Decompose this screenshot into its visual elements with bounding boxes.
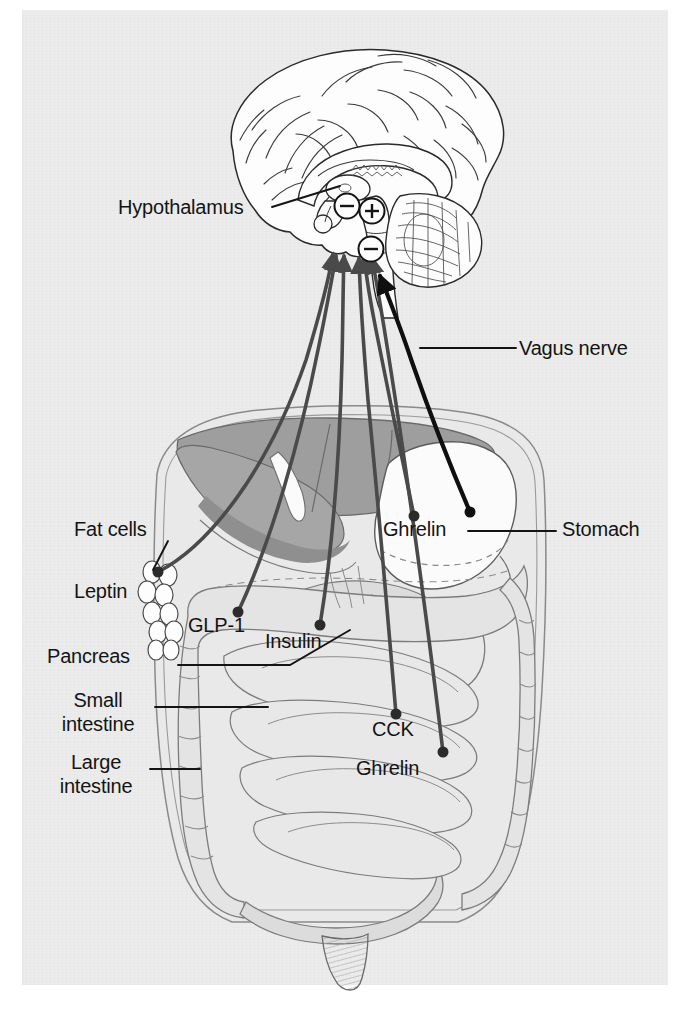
label-cck: CCK <box>372 718 414 741</box>
label-fat-cells: Fat cells <box>74 518 147 541</box>
label-glp1: GLP-1 <box>188 614 245 637</box>
figure-page: Hypothalamus Vagus nerve Fat cells Lepti… <box>0 0 683 1009</box>
insulin-dot <box>315 620 326 631</box>
label-insulin: Insulin <box>265 630 321 653</box>
label-pancreas: Pancreas <box>47 645 130 668</box>
label-hypothalamus: Hypothalamus <box>118 196 243 219</box>
label-small-intestine-line2: intestine <box>62 713 135 735</box>
label-stomach: Stomach <box>562 518 640 541</box>
label-vagus-nerve: Vagus nerve <box>519 337 628 360</box>
rectum <box>322 934 368 990</box>
label-ghrelin-intestine: Ghrelin <box>356 757 419 780</box>
ghrelin-intestine-dot <box>438 747 449 758</box>
label-small-intestine-line1: Small <box>73 689 122 711</box>
label-large-intestine-line1: Large <box>71 751 121 773</box>
pituitary-gland <box>314 215 332 233</box>
anatomy-illustration <box>0 0 683 1009</box>
abdomen-group <box>138 406 546 990</box>
label-ghrelin-stomach: Ghrelin <box>383 518 446 541</box>
label-large-intestine-line2: intestine <box>60 775 133 797</box>
label-leptin: Leptin <box>74 580 127 603</box>
vagus-origin-dot <box>465 507 476 518</box>
